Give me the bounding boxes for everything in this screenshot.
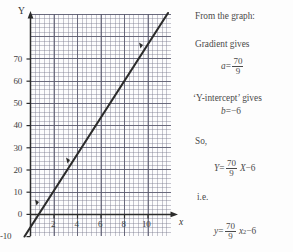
- intercept-value: −6: [231, 107, 241, 116]
- gradient-equation: a = 70 9: [221, 57, 245, 77]
- x-tick-label-2: 2: [51, 219, 55, 229]
- capital-eq-constant: −6: [246, 164, 256, 173]
- intercept-label: ‘Y-intercept’ gives: [193, 94, 262, 103]
- y-tick-label-0: 0: [0, 209, 22, 219]
- marker-arrow-upper: [139, 43, 143, 49]
- line-markers: [35, 43, 143, 206]
- final-equation: y = 70 9 x 2 −6: [214, 222, 256, 242]
- y-tick-label-30: 30: [0, 143, 22, 153]
- marker-arrow-lower: [35, 200, 39, 206]
- final-eq-equals: =: [218, 227, 223, 236]
- x-axis-arrow-icon: [171, 212, 179, 218]
- y-axis-title: Y: [18, 6, 25, 16]
- y-tick-label-20: 20: [0, 165, 22, 175]
- graph-worked-solution-page: 70 60 50 40 30 20 10 0 -10 2 4 6 8 10 Y …: [0, 0, 293, 252]
- final-eq-denominator: 9: [225, 231, 236, 241]
- intro-line: From the graph:: [195, 12, 255, 21]
- x-tick-label-8: 8: [122, 219, 126, 229]
- final-eq-numerator: 70: [225, 222, 236, 231]
- x-tick-label-4: 4: [75, 219, 79, 229]
- y-tick-label-60: 60: [0, 76, 22, 86]
- capital-equation: Y = 70 9 X −6: [214, 159, 256, 179]
- y-tick-label-70: 70: [0, 54, 22, 64]
- best-fit-line: [25, 13, 169, 237]
- gradient-numerator: 70: [232, 57, 243, 66]
- x-tick-label-10: 10: [142, 219, 151, 229]
- plot-overlay: [0, 0, 190, 252]
- capital-eq-equals: =: [219, 164, 224, 173]
- graph-panel: 70 60 50 40 30 20 10 0 -10 2 4 6 8 10 Y …: [0, 0, 190, 252]
- capital-eq-denominator: 9: [226, 168, 237, 178]
- final-eq-constant: −6: [246, 227, 256, 236]
- y-tick-label-40: 40: [0, 120, 22, 130]
- y-tick-label-minus10: -10: [0, 231, 11, 241]
- y-tick-label-10: 10: [0, 187, 22, 197]
- capital-eq-numerator: 70: [226, 159, 237, 168]
- y-axis-arrow-icon: [28, 11, 34, 19]
- gradient-equals: =: [226, 62, 231, 71]
- marker-data-point: [66, 158, 70, 164]
- capital-eq-fraction: 70 9: [226, 159, 237, 179]
- gradient-fraction: 70 9: [232, 57, 243, 77]
- solution-text-panel: From the graph: Gradient gives a = 70 9 …: [193, 0, 293, 252]
- x-axis-title: x: [179, 217, 183, 227]
- gradient-denominator: 9: [232, 66, 243, 76]
- so-label: So,: [195, 137, 207, 146]
- y-tick-label-50: 50: [0, 98, 22, 108]
- final-eq-fraction: 70 9: [225, 222, 236, 242]
- gradient-label: Gradient gives: [195, 40, 249, 49]
- intercept-equation: b = −6: [221, 107, 241, 116]
- x-tick-label-6: 6: [98, 219, 102, 229]
- ie-label: i.e.: [197, 193, 208, 202]
